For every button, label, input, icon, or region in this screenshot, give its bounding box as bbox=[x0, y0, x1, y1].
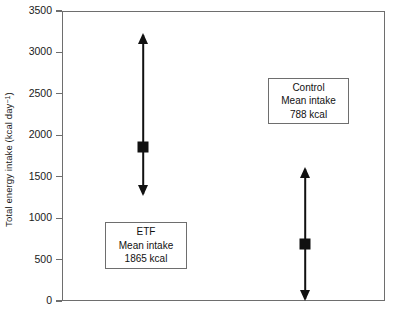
annotation-control-line3: 788 kcal bbox=[290, 108, 327, 122]
y-axis-title-suffix: ) bbox=[3, 92, 14, 95]
y-tick-label-1000: 1000 bbox=[29, 212, 52, 223]
annotation-control-line2: Mean intake bbox=[281, 94, 335, 108]
y-tick-label-500: 500 bbox=[34, 254, 52, 265]
errorbar-etf-stem bbox=[142, 35, 144, 194]
errorbar-control-arrow-down-icon bbox=[300, 290, 310, 301]
errorbar-etf-mean-marker bbox=[138, 141, 149, 152]
errorbar-control-stem bbox=[304, 169, 306, 299]
annotation-etf-line2: Mean intake bbox=[119, 239, 173, 253]
y-axis-title-text: Total energy intake (kcal day bbox=[3, 104, 14, 227]
y-axis-title: Total energy intake (kcal day−1) bbox=[0, 0, 16, 319]
errorbar-control bbox=[295, 167, 315, 301]
errorbar-etf bbox=[133, 33, 153, 196]
y-tick-label-0: 0 bbox=[46, 295, 52, 306]
annotation-box-etf: ETF Mean intake 1865 kcal bbox=[105, 222, 187, 269]
chart-figure: Total energy intake (kcal day−1) 3500 30… bbox=[0, 0, 400, 319]
y-tick-label-2500: 2500 bbox=[29, 88, 52, 99]
annotation-control-line1: Control bbox=[292, 81, 324, 95]
annotation-etf-line1: ETF bbox=[137, 225, 156, 239]
y-tick-label-2000: 2000 bbox=[29, 129, 52, 140]
annotation-etf-line3: 1865 kcal bbox=[125, 252, 168, 266]
annotation-box-control: Control Mean intake 788 kcal bbox=[268, 78, 349, 124]
y-tick-label-1500: 1500 bbox=[29, 171, 52, 182]
y-tick-label-3500: 3500 bbox=[29, 5, 52, 16]
errorbar-etf-arrow-down-icon bbox=[138, 185, 148, 196]
y-tick-label-3000: 3000 bbox=[29, 46, 52, 57]
errorbar-control-mean-marker bbox=[300, 239, 311, 250]
